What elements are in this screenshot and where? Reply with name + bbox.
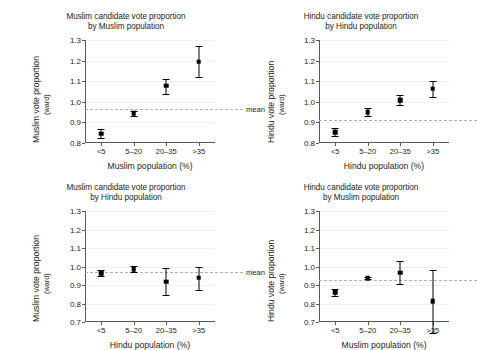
x-tick-label: >35	[426, 147, 439, 156]
gridline	[319, 248, 449, 249]
y-tick-mark	[82, 102, 85, 103]
y-axis-line	[319, 40, 320, 143]
gridline	[319, 122, 449, 123]
x-tick-mark	[134, 143, 135, 146]
y-tick-mark	[82, 211, 85, 212]
x-tick-label: 5–20	[359, 147, 376, 156]
error-bar-cap	[397, 95, 404, 96]
gridline	[85, 304, 215, 305]
data-point-marker	[430, 87, 435, 92]
gridline	[319, 211, 449, 212]
y-tick-mark	[82, 267, 85, 268]
y-tick-mark	[82, 122, 85, 123]
y-axis-line	[85, 40, 86, 143]
x-tick-label: >35	[192, 147, 205, 156]
x-tick-label: <5	[331, 147, 340, 156]
data-point-marker	[131, 111, 136, 116]
error-bar-cap	[429, 81, 436, 82]
data-point-marker	[365, 276, 370, 281]
y-tick-mark	[316, 267, 319, 268]
y-tick-mark	[316, 61, 319, 62]
error-bar-cap	[332, 296, 339, 297]
gridline	[319, 267, 449, 268]
error-bar-cap	[98, 138, 105, 139]
x-tick-label: 5–20	[125, 326, 142, 335]
data-point-marker	[99, 271, 104, 276]
x-axis-line	[85, 142, 215, 143]
gridline	[319, 40, 449, 41]
panel-title: Muslim candidate vote proportionby Hindu…	[15, 183, 237, 203]
chart-panel-top-right: Hindu candidate vote proportionby Hindu …	[250, 2, 472, 177]
x-axis-label: Hindu population (%)	[303, 161, 465, 171]
x-tick-mark	[335, 322, 336, 325]
plot-area: 1.31.21.11.00.90.80.7mean<55–2020–35>35	[319, 211, 449, 322]
figure-canvas: Muslim candidate vote proportionby Musli…	[0, 0, 477, 350]
data-point-marker	[196, 275, 201, 280]
y-tick-mark	[82, 285, 85, 286]
x-tick-mark	[335, 143, 336, 146]
chart-panel-top-left: Muslim candidate vote proportionby Musli…	[15, 2, 237, 177]
x-tick-label: <5	[331, 326, 340, 335]
data-point-marker	[398, 270, 403, 275]
error-bar-cap	[429, 333, 436, 334]
gridline	[319, 61, 449, 62]
x-tick-mark	[199, 143, 200, 146]
data-point-marker	[131, 267, 136, 272]
x-tick-mark	[166, 143, 167, 146]
panel-title-line: Muslim candidate vote proportion	[15, 183, 237, 193]
y-tick-mark	[82, 230, 85, 231]
x-tick-label: <5	[97, 326, 106, 335]
error-bar-cap	[163, 94, 170, 95]
y-axis-label: Muslim vote proportion	[31, 235, 41, 322]
error-bar-cap	[195, 77, 202, 78]
gridline	[85, 40, 215, 41]
x-tick-label: 20–35	[156, 147, 177, 156]
gridline	[85, 230, 215, 231]
gridline	[85, 248, 215, 249]
error-bar-cap	[397, 284, 404, 285]
error-bar-cap	[130, 272, 137, 273]
data-point-marker	[365, 110, 370, 115]
error-bar-cap	[130, 116, 137, 117]
data-point-marker	[398, 98, 403, 103]
x-axis-line	[85, 321, 215, 322]
x-tick-label: 20–35	[390, 147, 411, 156]
panel-title: Muslim candidate vote proportionby Musli…	[15, 12, 237, 32]
x-tick-label: >35	[192, 326, 205, 335]
data-point-marker	[164, 83, 169, 88]
x-axis-line	[319, 142, 449, 143]
y-tick-mark	[82, 81, 85, 82]
y-tick-mark	[82, 40, 85, 41]
x-axis-label: Muslim population (%)	[303, 340, 465, 350]
y-tick-mark	[316, 230, 319, 231]
gridline	[85, 81, 215, 82]
x-tick-label: 5–20	[359, 326, 376, 335]
panel-title-line: by Muslim population	[15, 22, 237, 32]
panel-title-line: Hindu candidate vote proportion	[250, 12, 472, 22]
y-tick-mark	[316, 122, 319, 123]
y-axis-label-unit: (ward)	[277, 273, 286, 294]
mean-reference-line	[85, 109, 243, 110]
mean-reference-line	[85, 272, 243, 273]
gridline	[319, 102, 449, 103]
panel-title-line: by Hindu population	[250, 22, 472, 32]
panel-title-line: Muslim candidate vote proportion	[15, 12, 237, 22]
data-point-marker	[164, 279, 169, 284]
panel-title: Hindu candidate vote proportionby Hindu …	[250, 12, 472, 32]
y-tick-mark	[316, 248, 319, 249]
panel-title-line: by Hindu population	[15, 193, 237, 203]
y-tick-mark	[82, 304, 85, 305]
y-tick-mark	[316, 81, 319, 82]
mean-reference-line	[319, 280, 477, 281]
x-axis-label: Muslim population (%)	[69, 161, 231, 171]
y-axis-label: Hindu vote proportion	[266, 240, 276, 322]
data-point-marker	[333, 130, 338, 135]
y-axis-label: Hindu vote proportion	[266, 61, 276, 143]
error-bar-cap	[332, 136, 339, 137]
y-tick-mark	[316, 143, 319, 144]
panel-title-line: by Muslim population	[250, 193, 472, 203]
error-bar-cap	[163, 295, 170, 296]
plot-area: 1.31.21.11.00.90.8mean<55–2020–35>35	[85, 40, 215, 143]
x-tick-mark	[400, 322, 401, 325]
gridline	[319, 304, 449, 305]
